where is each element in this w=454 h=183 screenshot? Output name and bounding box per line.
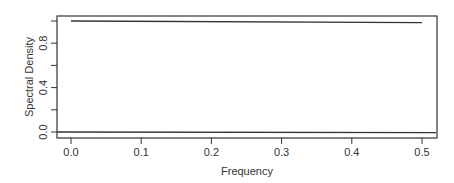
y-tick-label: 0.4 — [37, 80, 49, 95]
x-tick-label: 0.2 — [204, 146, 219, 158]
y-tick-label: 0.8 — [37, 36, 49, 51]
x-tick-label: 0.0 — [63, 146, 78, 158]
x-axis-label: Frequency — [221, 165, 273, 177]
plot-frame — [57, 16, 437, 138]
x-tick-label: 0.1 — [134, 146, 149, 158]
y-axis-label: Spectral Density — [23, 36, 35, 117]
x-tick-label: 0.3 — [274, 146, 289, 158]
spectral-density-chart: 0.00.10.20.30.40.5 0.00.40.8 Frequency S… — [0, 0, 454, 183]
spectral-density-line — [71, 21, 422, 23]
x-axis: 0.00.10.20.30.40.5 — [63, 138, 429, 158]
zero-baseline-line — [57, 132, 436, 133]
y-tick-label: 0.0 — [37, 124, 49, 139]
plot-area — [57, 16, 437, 138]
x-tick-label: 0.5 — [414, 146, 429, 158]
y-axis: 0.00.40.8 — [37, 21, 57, 140]
x-tick-label: 0.4 — [344, 146, 359, 158]
